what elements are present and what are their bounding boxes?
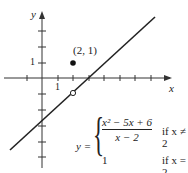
case2-value: 1 xyxy=(102,154,108,166)
case1-condition: if x ≠ 2 xyxy=(162,125,188,149)
x-axis-arrow-icon xyxy=(164,75,172,81)
point-label: (2, 1) xyxy=(73,45,97,56)
filled-point xyxy=(70,60,76,66)
formula-fraction: x² − 5x + 6 x − 2 xyxy=(102,116,152,143)
open-point-hole xyxy=(70,90,75,95)
tick-label-y1: 1 xyxy=(30,57,35,67)
fraction-denominator: x − 2 xyxy=(102,130,152,143)
formula-lhs: y = xyxy=(76,140,91,152)
x-axis-label: x xyxy=(169,83,174,94)
y-axis-label: y xyxy=(31,9,36,20)
y-axis-arrow-icon xyxy=(39,11,45,19)
case2-condition: if x = 2 xyxy=(162,154,188,173)
tick-label-x1: 1 xyxy=(55,82,60,92)
fraction-numerator: x² − 5x + 6 xyxy=(102,116,152,130)
piecewise-formula: y = { x² − 5x + 6 x − 2 if x ≠ 2 1 if x … xyxy=(76,112,188,172)
